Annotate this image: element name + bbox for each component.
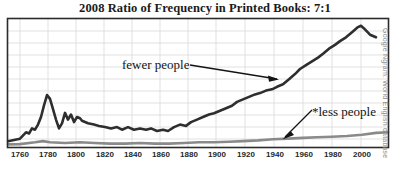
x-tick-1860: 1860 (152, 150, 170, 159)
x-tick-1880: 1880 (180, 150, 198, 159)
plot-background (8, 19, 389, 148)
annotation-fewer-people: fewer people (122, 57, 190, 73)
x-tick-1980: 1980 (324, 150, 342, 159)
x-tick-1820: 1820 (96, 150, 114, 159)
plot-area (0, 0, 410, 172)
x-tick-1960: 1960 (295, 150, 313, 159)
x-tick-1760: 1760 (11, 150, 29, 159)
x-tick-2000: 2000 (353, 150, 371, 159)
source-attribution-label: Google Ngram: World English database (382, 28, 389, 146)
x-tick-1780: 1780 (39, 150, 57, 159)
annotation-less-people: *less people (312, 104, 376, 120)
x-tick-1840: 1840 (124, 150, 142, 159)
x-tick-1940: 1940 (266, 150, 284, 159)
x-tick-1920: 1920 (237, 150, 255, 159)
x-tick-1900: 1900 (208, 150, 226, 159)
x-tick-1800: 1800 (67, 150, 85, 159)
ngram-chart-figure: 2008 Ratio of Frequency in Printed Books… (0, 0, 410, 172)
